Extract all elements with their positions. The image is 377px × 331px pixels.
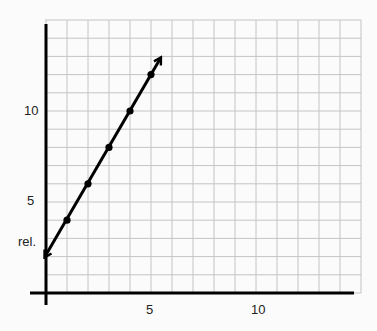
axes <box>30 24 354 305</box>
data-point-marker <box>105 144 112 151</box>
data-point-marker <box>126 107 133 114</box>
line-chart: 10 5 rel. 5 10 <box>0 0 377 331</box>
x-tick-5: 5 <box>146 302 153 317</box>
data-point-marker <box>84 180 91 187</box>
x-tick-10: 10 <box>251 302 265 317</box>
data-point-marker <box>63 217 70 224</box>
y-annotation-label: rel. <box>18 234 36 249</box>
data-series <box>45 58 160 256</box>
data-point-marker <box>147 71 154 78</box>
y-tick-5: 5 <box>27 193 34 208</box>
data-line <box>45 58 160 256</box>
tick-labels: 10 5 rel. 5 10 <box>18 103 265 317</box>
y-tick-10: 10 <box>24 103 38 118</box>
grid-lines <box>45 20 361 293</box>
